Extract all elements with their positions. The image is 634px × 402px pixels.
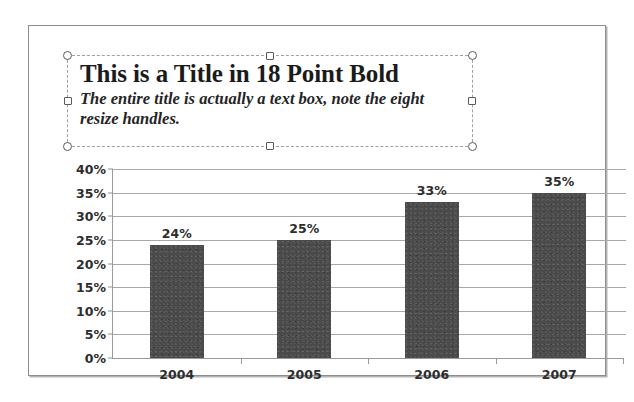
y-axis-tick-mark bbox=[108, 310, 113, 311]
bar[interactable]: 24% bbox=[150, 245, 204, 358]
y-axis-tick-label: 0% bbox=[85, 351, 106, 366]
title-text-box-content[interactable]: This is a Title in 18 Point Bold The ent… bbox=[68, 56, 472, 129]
bar-data-label: 35% bbox=[544, 174, 574, 189]
resize-handle-top-left[interactable] bbox=[63, 51, 72, 60]
bar[interactable]: 35% bbox=[532, 193, 586, 358]
y-axis-tick-label: 35% bbox=[76, 185, 106, 200]
resize-handle-middle-left[interactable] bbox=[64, 97, 72, 105]
y-axis-tick-mark bbox=[108, 358, 113, 359]
x-axis-tick-mark bbox=[496, 358, 497, 364]
resize-handle-bottom-right[interactable] bbox=[468, 142, 477, 151]
x-axis-category-label: 2004 bbox=[159, 367, 194, 382]
y-axis-tick-mark bbox=[108, 192, 113, 193]
title-subtext: The entire title is actually a text box,… bbox=[80, 89, 462, 129]
gridline bbox=[113, 169, 626, 170]
resize-handle-bottom-middle[interactable] bbox=[266, 142, 274, 150]
resize-handle-top-middle[interactable] bbox=[266, 52, 274, 60]
bar-data-label: 24% bbox=[162, 226, 192, 241]
title-text-box[interactable]: This is a Title in 18 Point Bold The ent… bbox=[67, 55, 473, 147]
y-axis-tick-label: 40% bbox=[76, 162, 106, 177]
slide-canvas[interactable]: This is a Title in 18 Point Bold The ent… bbox=[28, 25, 606, 376]
resize-handle-top-right[interactable] bbox=[468, 51, 477, 60]
x-axis-category-label: 2007 bbox=[542, 367, 577, 382]
page-title: This is a Title in 18 Point Bold bbox=[80, 60, 462, 87]
y-axis-tick-mark bbox=[108, 334, 113, 335]
x-axis-tick-mark bbox=[623, 358, 624, 364]
x-axis-tick-mark bbox=[368, 358, 369, 364]
resize-handle-bottom-left[interactable] bbox=[63, 142, 72, 151]
y-axis-tick-label: 5% bbox=[85, 327, 106, 342]
x-axis-tick-mark bbox=[241, 358, 242, 364]
bar-chart[interactable]: 0%5%10%15%20%25%30%35%40%24%200425%20053… bbox=[63, 158, 629, 393]
y-axis-tick-label: 25% bbox=[76, 232, 106, 247]
x-axis-category-label: 2006 bbox=[414, 367, 449, 382]
y-axis-tick-label: 15% bbox=[76, 280, 106, 295]
y-axis-tick-mark bbox=[108, 239, 113, 240]
y-axis-tick-mark bbox=[108, 216, 113, 217]
y-axis-tick-mark bbox=[108, 263, 113, 264]
x-axis-category-label: 2005 bbox=[287, 367, 322, 382]
y-axis-tick-label: 30% bbox=[76, 209, 106, 224]
y-axis-tick-mark bbox=[108, 169, 113, 170]
y-axis-tick-label: 10% bbox=[76, 303, 106, 318]
bar-data-label: 33% bbox=[417, 183, 447, 198]
resize-handle-middle-right[interactable] bbox=[468, 97, 476, 105]
bar[interactable]: 33% bbox=[405, 202, 459, 358]
bar-data-label: 25% bbox=[289, 221, 319, 236]
chart-plot-area: 0%5%10%15%20%25%30%35%40%24%200425%20053… bbox=[112, 169, 623, 359]
y-axis-tick-mark bbox=[108, 287, 113, 288]
bar[interactable]: 25% bbox=[277, 240, 331, 358]
y-axis-tick-label: 20% bbox=[76, 256, 106, 271]
